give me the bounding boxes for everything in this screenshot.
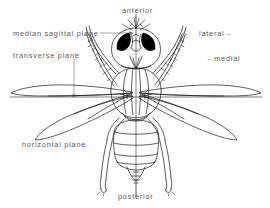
hind-leg-right <box>149 118 175 196</box>
transverse-plane-leader <box>72 58 75 97</box>
hind-leg-left <box>97 118 123 196</box>
label-lateral: lateral→ <box>199 30 233 37</box>
mid-leg-right <box>155 34 185 86</box>
label-posterior: posterior <box>118 193 154 200</box>
label-anterior: anterior <box>122 7 153 14</box>
figure-canvas: anterior median sagittal plane transvers… <box>0 0 270 208</box>
label-medial: ←medial <box>206 55 240 62</box>
mid-leg-left <box>87 34 117 86</box>
label-median-sagittal-plane: median sagittal plane <box>13 30 99 37</box>
fore-leg-right <box>153 26 187 74</box>
label-transverse-plane: transverse plane <box>13 52 80 59</box>
label-horizontal-plane: horizontal plane <box>22 141 86 148</box>
